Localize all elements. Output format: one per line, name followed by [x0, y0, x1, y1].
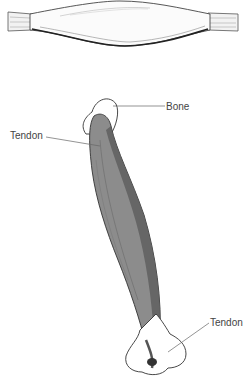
bone-bottom: [126, 314, 186, 375]
attached-muscle: [83, 99, 186, 375]
muscle-diagram: Bone Tendon Tendon: [0, 0, 243, 381]
tendon-bottom-label: Tendon: [210, 317, 243, 329]
tendon-top-label: Tendon: [10, 130, 43, 142]
horizontal-muscle: [8, 1, 238, 46]
bone-label: Bone: [166, 101, 189, 113]
diagram-drawing: [0, 0, 243, 381]
muscle-belly: [90, 114, 161, 349]
